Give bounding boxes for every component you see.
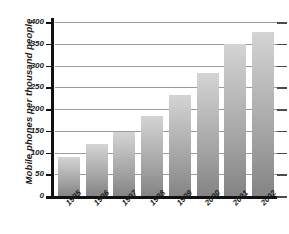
y-axis-tick	[46, 109, 52, 111]
bar-2000	[197, 73, 219, 196]
y-axis-tick-right	[277, 87, 287, 89]
y-axis-tick-labels: 050100150200250300350400	[16, 0, 44, 234]
y-axis-tick	[46, 153, 52, 155]
y-axis-tick-right	[277, 174, 287, 176]
y-axis-tick	[46, 22, 52, 24]
y-axis-tick	[46, 131, 52, 133]
bar-1997	[113, 132, 135, 196]
bar-1999	[169, 95, 191, 196]
y-axis-tick-label: 100	[18, 148, 44, 157]
y-axis-tick-right	[277, 44, 287, 46]
y-axis-tick-label: 400	[18, 17, 44, 26]
y-axis-tick-label: 0	[18, 191, 44, 200]
y-axis-tick-right	[277, 66, 287, 68]
y-axis-tick-right	[277, 153, 287, 155]
bar-chart: Mobile phones per thousand people 050100…	[0, 0, 289, 234]
y-axis-tick-label: 50	[18, 169, 44, 178]
bar-2002	[252, 32, 274, 196]
y-axis-tick	[46, 87, 52, 89]
y-axis-tick	[46, 196, 52, 198]
x-axis-tick-labels: 19951996199719981999200020012002	[55, 199, 289, 234]
y-axis-tick	[46, 44, 52, 46]
y-axis-tick-label: 150	[18, 126, 44, 135]
bars-layer	[55, 22, 277, 196]
y-axis-tick-right	[277, 109, 287, 111]
y-axis-tick	[46, 174, 52, 176]
bar-1998	[141, 116, 163, 196]
bar-2001	[224, 44, 246, 196]
y-axis-tick-label: 200	[18, 104, 44, 113]
y-axis-tick-label: 300	[18, 61, 44, 70]
y-axis-tick-right	[277, 131, 287, 133]
y-axis-tick-label: 250	[18, 82, 44, 91]
y-axis-tick-right	[277, 196, 287, 198]
y-axis-tick-right	[277, 22, 287, 24]
y-axis-tick	[46, 66, 52, 68]
y-axis-tick-label: 350	[18, 39, 44, 48]
